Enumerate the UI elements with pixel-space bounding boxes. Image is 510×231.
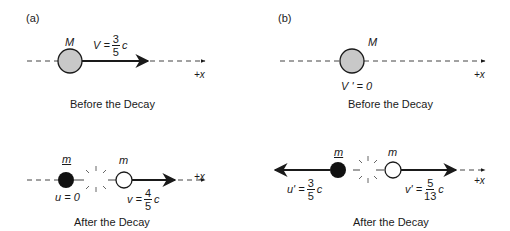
mass-label-m-left: m (62, 154, 71, 165)
mass-label-M: M (65, 37, 74, 48)
velocity-fraction: 5 13 (424, 177, 436, 202)
mass-label-M: M (368, 37, 377, 48)
velocity-label-u: u = 0 (55, 192, 80, 203)
velocity-unit: c (317, 184, 323, 195)
axis-label: +x (194, 172, 205, 182)
axis-label: +x (474, 70, 485, 80)
axis-label: +x (194, 70, 205, 80)
velocity-unit: c (154, 194, 160, 205)
mass-label-m-right: m (119, 155, 128, 166)
velocity-label-V: V = 3 5 c (93, 33, 127, 58)
velocity-fraction: 4 5 (144, 187, 152, 212)
axis-label: +x (474, 176, 485, 186)
panel-label-b: (b) (278, 13, 291, 24)
fraction-denominator: 13 (424, 190, 436, 202)
velocity-label-V-prime: V ' = 0 (341, 81, 372, 92)
velocity-symbol: v = (127, 194, 142, 205)
caption-before: Before the Decay (348, 99, 433, 110)
decay-burst-icon (86, 166, 106, 192)
mass-label-m-right: m (388, 147, 397, 158)
mass-label-m-left: m (334, 147, 343, 158)
decay-burst-icon (359, 156, 377, 183)
velocity-label-u-prime: u' = 3 5 c (287, 177, 322, 202)
panel-a-after (27, 166, 205, 192)
fraction-denominator: 5 (145, 200, 151, 212)
parent-particle (340, 49, 364, 73)
white-daughter-particle (116, 172, 132, 188)
velocity-label-v-prime: v' = 5 13 c (405, 177, 444, 202)
white-daughter-particle (385, 162, 401, 178)
parent-particle (58, 49, 82, 73)
velocity-fraction: 3 5 (307, 177, 315, 202)
fraction-numerator: 5 (426, 177, 434, 190)
caption-after: After the Decay (353, 217, 429, 228)
velocity-symbol: v' = (405, 184, 422, 195)
fraction-numerator: 3 (112, 33, 120, 46)
black-daughter-particle (330, 162, 346, 178)
fraction-numerator: 3 (307, 177, 315, 190)
caption-before: Before the Decay (70, 99, 155, 110)
panel-b-before (280, 49, 485, 73)
velocity-symbol: u' = (287, 184, 305, 195)
caption-after: After the Decay (74, 217, 150, 228)
fraction-denominator: 5 (113, 46, 119, 58)
black-daughter-particle (58, 172, 74, 188)
panel-label-a: (a) (26, 13, 39, 24)
fraction-numerator: 4 (144, 187, 152, 200)
velocity-unit: c (122, 40, 128, 51)
velocity-symbol: V = (93, 40, 110, 51)
velocity-fraction: 3 5 (112, 33, 120, 58)
velocity-label-v: v = 4 5 c (127, 187, 160, 212)
velocity-unit: c (438, 184, 444, 195)
fraction-denominator: 5 (308, 190, 314, 202)
